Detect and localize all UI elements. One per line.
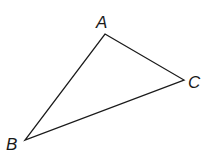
triangle-abc: [25, 34, 184, 140]
vertex-label-b: B: [6, 135, 17, 154]
triangle-diagram: A C B: [0, 0, 213, 160]
vertex-label-a: A: [95, 13, 107, 32]
vertex-label-c: C: [188, 73, 201, 92]
